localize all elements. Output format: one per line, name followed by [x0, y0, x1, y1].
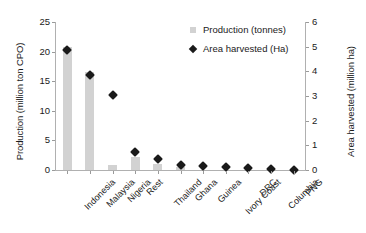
y-left-tickmark-25 [52, 22, 55, 23]
y-left-tick-0: 0 [26, 164, 50, 175]
bar-indonesia [63, 47, 72, 170]
diamond-swatch-icon [189, 44, 197, 52]
x-tickmark-1 [90, 171, 91, 174]
y-right-tickmark-2 [306, 121, 309, 122]
y-right-tickmark-4 [306, 71, 309, 72]
y-right-tickmark-5 [306, 47, 309, 48]
y-left-tick-20: 20 [26, 46, 50, 57]
marker-nigeria [108, 90, 118, 100]
y-right-tick-4: 4 [312, 65, 332, 76]
y-left-tick-25: 25 [26, 16, 50, 27]
x-tickmark-5 [181, 171, 182, 174]
chart-legend: Production (tonnes) Area harvested (Ha) [190, 22, 289, 60]
y-right-tick-3: 3 [312, 90, 332, 101]
y-axis-right-title: Area harvested (million ha) [345, 19, 356, 184]
y-right-tick-0: 0 [312, 164, 332, 175]
y-left-tickmark-0 [52, 170, 55, 171]
x-tickmark-0 [67, 171, 68, 174]
x-tickmark-6 [203, 171, 204, 174]
y-left-tickmark-10 [52, 111, 55, 112]
marker-guinea [198, 161, 208, 171]
y-left-tickmark-20 [52, 52, 55, 53]
x-label-guinea: Guinea [216, 177, 244, 205]
legend-item-production: Production (tonnes) [190, 22, 289, 37]
y-right-tickmark-6 [306, 22, 309, 23]
y-right-tickmark-1 [306, 145, 309, 146]
legend-label-production: Production (tonnes) [203, 24, 286, 35]
x-tickmark-9 [271, 171, 272, 174]
y-right-tick-5: 5 [312, 41, 332, 52]
x-tickmark-7 [226, 171, 227, 174]
chart-container: Production (million ton CPO) Area harves… [0, 0, 366, 233]
legend-item-area-harvested: Area harvested (Ha) [190, 41, 289, 56]
bar-thailand [153, 164, 162, 171]
y-right-tickmark-0 [306, 170, 309, 171]
bar-nigeria [108, 165, 117, 170]
bar-rest [131, 157, 140, 170]
square-swatch-icon [190, 27, 196, 33]
y-right-tick-6: 6 [312, 16, 332, 27]
y-left-tick-10: 10 [26, 105, 50, 116]
legend-label-area-harvested: Area harvested (Ha) [203, 43, 289, 54]
x-tickmark-10 [294, 171, 295, 174]
y-left-tickmark-5 [52, 140, 55, 141]
y-right-tickmark-3 [306, 96, 309, 97]
bar-malaysia [85, 72, 94, 170]
y-axis-left-title: Production (million ton CPO) [14, 27, 25, 177]
y-right-tick-1: 1 [312, 139, 332, 150]
y-left-tickmark-15 [52, 81, 55, 82]
y-right-tick-2: 2 [312, 115, 332, 126]
y-left-tick-5: 5 [26, 134, 50, 145]
x-tickmark-3 [135, 171, 136, 174]
x-tickmark-8 [248, 171, 249, 174]
x-tickmark-4 [158, 171, 159, 174]
x-tickmark-2 [113, 171, 114, 174]
y-left-tick-15: 15 [26, 75, 50, 86]
marker-rest [130, 147, 140, 157]
